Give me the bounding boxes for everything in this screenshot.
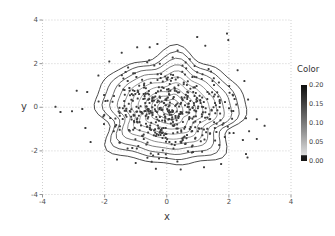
- x-axis-title: x: [159, 212, 175, 222]
- colorbar-tick-label: 0.10: [309, 120, 331, 127]
- y-tick-label: 4: [14, 16, 38, 24]
- colorbar-tick-label: 0.00: [309, 158, 331, 165]
- x-tick-label: -2: [95, 198, 115, 206]
- colorbar-gradient: [301, 85, 307, 161]
- x-tick-label: 2: [219, 198, 239, 206]
- x-tick-label: 4: [281, 198, 301, 206]
- y-axis-title: y: [21, 102, 27, 112]
- colorbar-tick-label: 0.05: [309, 139, 331, 146]
- colorbar-tick-label: 0.15: [309, 101, 331, 108]
- axis-ticks: [40, 20, 292, 198]
- density-contour-lines: [94, 44, 247, 164]
- x-tick-label: 0: [157, 198, 177, 206]
- legend-title: Color: [297, 64, 331, 74]
- x-tick-label: -4: [33, 198, 53, 206]
- y-tick-label: -2: [14, 147, 38, 155]
- y-tick-label: 2: [14, 60, 38, 68]
- gridlines: [43, 20, 292, 195]
- density-scatter-figure: 4 2 0 -2 -4 -4 -2 0 2 4 x y Color 0.20 0…: [0, 0, 335, 236]
- colorbar-tick-label: 0.20: [309, 82, 331, 89]
